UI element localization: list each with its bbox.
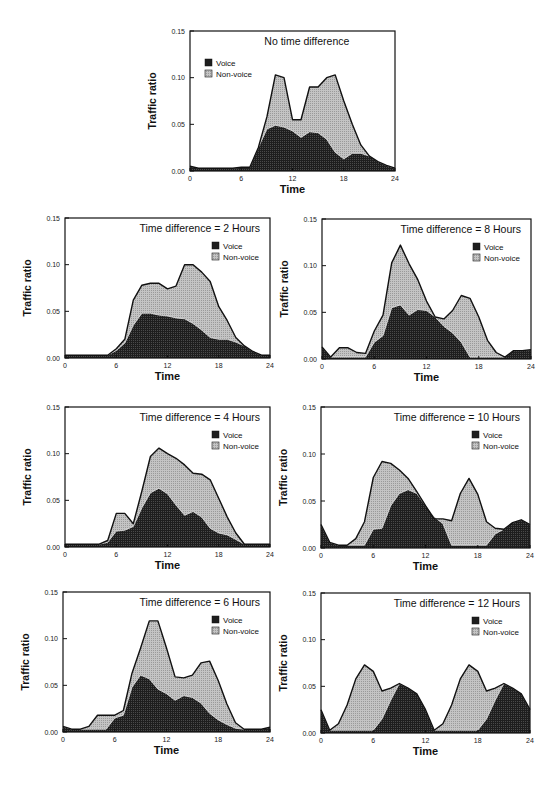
x-tick-label: 0 <box>320 363 324 370</box>
legend-nonvoice-swatch <box>212 253 219 260</box>
x-tick-label: 24 <box>527 363 535 370</box>
y-tick-label: 0.10 <box>303 262 317 269</box>
y-axis-title: Traffic ratio <box>21 448 33 505</box>
x-tick-label: 6 <box>113 736 117 743</box>
legend: VoiceNon-voice <box>205 59 253 79</box>
legend-voice-label: Voice <box>223 431 243 440</box>
panel-title: Time difference = 12 Hours <box>394 597 520 609</box>
legend-voice-swatch <box>473 243 480 250</box>
x-tick-label: 24 <box>266 362 274 369</box>
y-tick-label: 0.10 <box>46 450 60 457</box>
x-tick-label: 12 <box>164 362 172 369</box>
y-tick-label: 0.10 <box>44 635 58 642</box>
legend-voice-label: Voice <box>223 242 243 251</box>
y-axis-title: Traffic ratio <box>21 259 33 316</box>
x-axis-title: Time <box>155 370 180 382</box>
legend-voice-label: Voice <box>483 431 503 440</box>
x-tick-label: 6 <box>114 551 118 558</box>
x-tick-label: 6 <box>371 737 375 744</box>
panel-title: Time difference = 4 Hours <box>139 411 260 423</box>
x-tick-label: 12 <box>423 363 431 370</box>
y-tick-label: 0.05 <box>303 309 317 316</box>
legend-nonvoice-label: Non-voice <box>223 442 260 451</box>
x-tick-label: 6 <box>114 362 118 369</box>
y-tick-label: 0.00 <box>46 355 60 362</box>
y-tick-label: 0.05 <box>46 497 60 504</box>
legend-nonvoice-swatch <box>473 254 480 261</box>
x-tick-label: 24 <box>266 551 274 558</box>
legend-nonvoice-swatch <box>212 442 219 449</box>
voice-area <box>321 490 530 548</box>
x-tick-label: 18 <box>474 737 482 744</box>
y-tick-label: 0.05 <box>302 683 316 690</box>
y-tick-label: 0.15 <box>171 28 185 35</box>
y-tick-label: 0.10 <box>171 74 185 81</box>
y-axis-title: Traffic ratio <box>277 449 289 506</box>
y-tick-label: 0.15 <box>44 589 58 596</box>
legend-voice-swatch <box>472 431 479 438</box>
y-tick-label: 0.05 <box>46 308 60 315</box>
chart-time-difference-12h: 0.000.050.100.1506121824TimeTraffic rati… <box>276 587 540 767</box>
y-tick-label: 0.05 <box>44 682 58 689</box>
legend-voice-label: Voice <box>223 616 243 625</box>
x-tick-label: 24 <box>391 175 399 182</box>
legend-nonvoice-swatch <box>472 442 479 449</box>
y-axis-title: Traffic ratio <box>278 260 290 317</box>
x-axis-title: Time <box>413 745 438 757</box>
chart-time-difference-6h: 0.000.050.100.1506121824TimeTraffic rati… <box>18 586 280 766</box>
legend: VoiceNon-voice <box>212 242 260 262</box>
legend: VoiceNon-voice <box>473 243 521 263</box>
y-axis-title: Traffic ratio <box>146 72 158 129</box>
legend-nonvoice-label: Non-voice <box>223 627 260 636</box>
legend-voice-label: Voice <box>483 617 503 626</box>
y-tick-label: 0.05 <box>171 121 185 128</box>
x-tick-label: 0 <box>188 175 192 182</box>
chart-time-difference-10h: 0.000.050.100.1506121824TimeTraffic rati… <box>276 401 540 582</box>
x-axis-title: Time <box>413 560 438 572</box>
x-tick-label: 0 <box>319 737 323 744</box>
legend-nonvoice-label: Non-voice <box>483 628 520 637</box>
voice-area <box>65 313 270 358</box>
y-tick-label: 0.00 <box>46 544 60 551</box>
x-tick-label: 18 <box>474 552 482 559</box>
y-tick-label: 0.00 <box>171 168 185 175</box>
x-tick-label: 18 <box>475 363 483 370</box>
legend-voice-label: Voice <box>216 59 236 68</box>
y-tick-label: 0.10 <box>302 451 316 458</box>
x-tick-label: 0 <box>63 362 67 369</box>
panel-title: Time difference = 10 Hours <box>394 411 520 423</box>
x-axis-title: Time <box>280 183 305 195</box>
x-tick-label: 18 <box>340 175 348 182</box>
legend: VoiceNon-voice <box>472 617 520 637</box>
y-tick-label: 0.15 <box>302 590 316 597</box>
legend: VoiceNon-voice <box>212 616 260 636</box>
x-axis-title: Time <box>414 371 439 383</box>
x-tick-label: 18 <box>214 736 222 743</box>
x-tick-label: 6 <box>239 175 243 182</box>
legend-nonvoice-label: Non-voice <box>483 442 520 451</box>
chart-no-time-difference: 0.000.050.100.1506121824TimeTraffic rati… <box>145 25 405 205</box>
x-tick-label: 12 <box>422 737 430 744</box>
chart-time-difference-4h: 0.000.050.100.1506121824TimeTraffic rati… <box>20 401 280 581</box>
legend-voice-swatch <box>212 431 219 438</box>
x-tick-label: 0 <box>63 551 67 558</box>
y-tick-label: 0.10 <box>302 636 316 643</box>
x-tick-label: 12 <box>422 552 430 559</box>
y-axis-title: Traffic ratio <box>277 634 289 691</box>
panel-title: Time difference = 2 Hours <box>139 222 260 234</box>
x-tick-label: 0 <box>61 736 65 743</box>
legend-nonvoice-label: Non-voice <box>216 70 253 79</box>
x-tick-label: 12 <box>163 736 171 743</box>
panel-title: Time difference = 8 Hours <box>400 223 521 235</box>
x-tick-label: 24 <box>526 552 534 559</box>
x-tick-label: 18 <box>215 551 223 558</box>
y-tick-label: 0.10 <box>46 261 60 268</box>
y-tick-label: 0.05 <box>302 498 316 505</box>
voice-area <box>190 125 395 171</box>
legend-voice-label: Voice <box>484 243 504 252</box>
panel-title: Time difference = 6 Hours <box>139 596 260 608</box>
x-tick-label: 6 <box>371 552 375 559</box>
legend-voice-swatch <box>212 242 219 249</box>
x-tick-label: 24 <box>266 736 274 743</box>
legend: VoiceNon-voice <box>472 431 520 451</box>
